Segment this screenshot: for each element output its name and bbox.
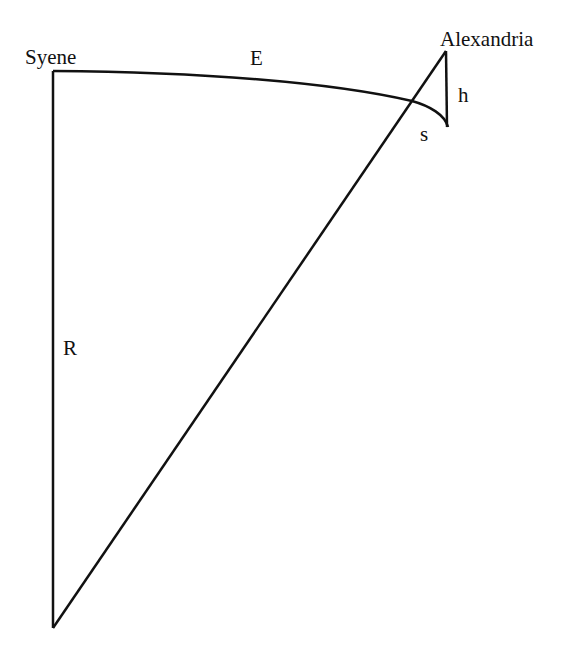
label-arc-e: E xyxy=(250,48,263,69)
label-alexandria: Alexandria xyxy=(440,29,533,50)
label-shadow-s: s xyxy=(420,124,428,145)
eratosthenes-diagram xyxy=(0,0,585,657)
earth-surface-arc xyxy=(53,71,448,127)
label-height-h: h xyxy=(458,85,469,106)
label-syene: Syene xyxy=(25,47,76,68)
gnomon-height-line xyxy=(446,51,447,127)
label-radius-r: R xyxy=(63,338,77,359)
sun-ray-line xyxy=(53,51,446,628)
